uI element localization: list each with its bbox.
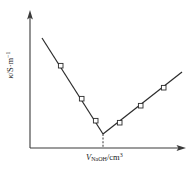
y-axis-unit-base: S·m	[5, 58, 15, 72]
x-axis-unit-base: cm	[109, 152, 119, 162]
x-axis-subscript: NaOH	[91, 156, 107, 162]
y-axis-separator: /	[5, 72, 15, 74]
data-point-marker	[93, 118, 98, 123]
data-point-marker	[117, 120, 122, 125]
data-point-marker	[79, 96, 84, 101]
y-axis-label: κ/S·m−1	[5, 41, 19, 89]
x-axis-unit-exponent: 3	[120, 152, 123, 158]
y-axis-symbol: κ	[5, 74, 15, 78]
data-point-marker	[58, 63, 63, 68]
x-axis-label: VNaOH/cm3	[86, 152, 123, 162]
chart-figure: κ/S·m−1 VNaOH/cm3	[0, 0, 196, 178]
data-point-marker	[161, 85, 166, 90]
y-axis-unit-exponent: −1	[5, 51, 11, 57]
data-point-marker	[138, 103, 143, 108]
